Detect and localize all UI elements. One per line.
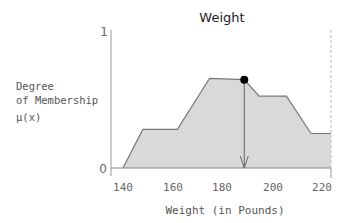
membership-point-marker <box>240 76 248 84</box>
membership-chart: Weight Degree of Membership μ(x) 1 0 140… <box>0 0 348 223</box>
membership-area <box>123 78 331 168</box>
x-tick-160: 160 <box>163 181 183 194</box>
y-tick-1: 1 <box>100 25 108 39</box>
x-tick-200: 200 <box>263 181 283 194</box>
y-axis-label-line-2: of Membership <box>16 94 98 106</box>
x-tick-140: 140 <box>113 181 133 194</box>
chart-title: Weight <box>199 10 244 25</box>
x-tick-220: 220 <box>312 181 332 194</box>
y-axis-label-line-1: Degree <box>16 80 54 92</box>
x-axis-label: Weight (in Pounds) <box>165 204 284 217</box>
y-tick-0: 0 <box>99 162 107 176</box>
x-tick-180: 180 <box>212 181 232 194</box>
y-axis-label-line-3: μ(x) <box>16 111 41 123</box>
